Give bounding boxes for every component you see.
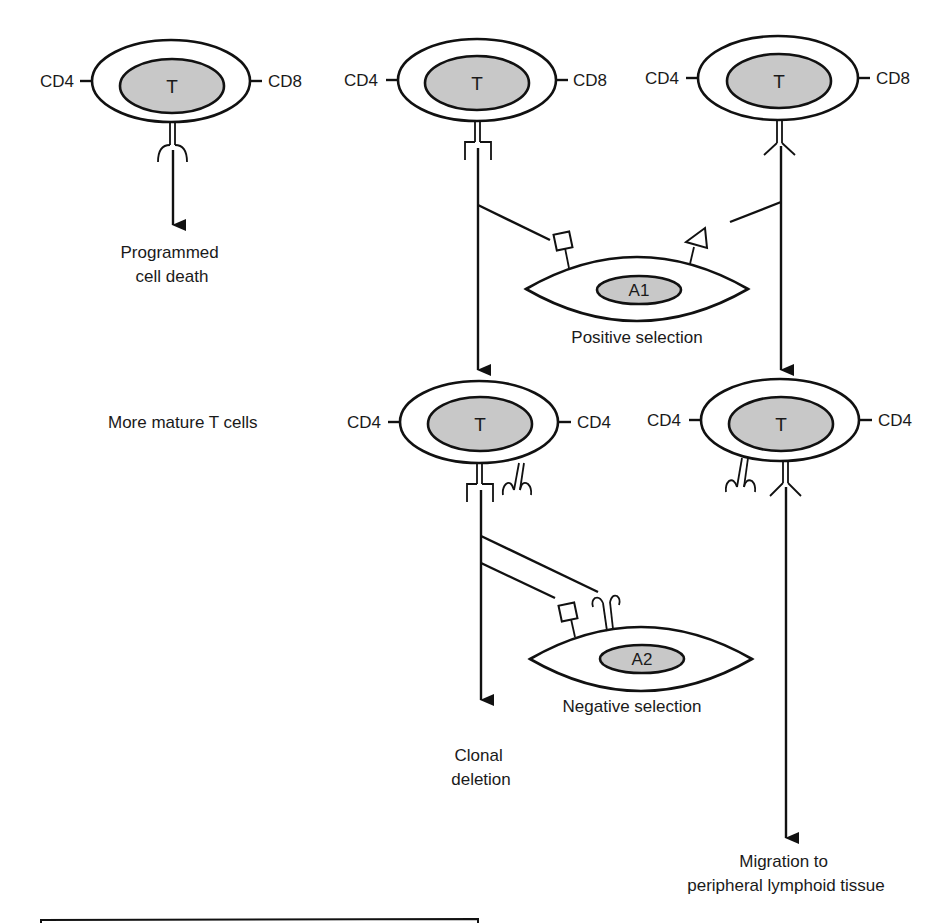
cd8-label: CD8 — [573, 71, 607, 90]
immature-t-cell-left: T CD4 CD8 Programmed cell death — [40, 40, 302, 286]
immature-t-cell-right: T CD4 CD8 — [645, 36, 910, 370]
cd4-label: CD4 — [40, 72, 74, 91]
antigen-presenting-cell-a1: A1 Positive selection — [526, 228, 748, 347]
antigen-presenting-cell-a2: A2 Negative selection — [530, 596, 752, 716]
mature-t-cell-left: T CD4 CD4 Clonal deletion — [347, 381, 611, 789]
cd8-label: CD8 — [876, 69, 910, 88]
cd4-label: CD4 — [347, 413, 381, 432]
nucleus-label: T — [166, 76, 178, 97]
cd4-label: CD4 — [647, 411, 681, 430]
cd4-label: CD4 — [577, 413, 611, 432]
nucleus-label: T — [474, 414, 486, 435]
square-antigen-icon — [554, 232, 573, 251]
cd4-label: CD4 — [878, 411, 912, 430]
cd4-label: CD4 — [645, 69, 679, 88]
curly-ligand-icon — [592, 596, 619, 631]
apc-nucleus-label: A2 — [632, 650, 653, 669]
t-cell-selection-diagram: T CD4 CD8 Programmed cell death T CD4 CD… — [0, 0, 948, 923]
curly-receptor-icon — [726, 458, 755, 492]
apc-nucleus-label: A1 — [629, 281, 650, 300]
immature-t-cell-middle: T CD4 CD8 — [344, 39, 607, 370]
binding-line-triangle — [730, 202, 781, 222]
mhc-stalk — [571, 619, 575, 637]
cd4-label: CD4 — [344, 71, 378, 90]
fate-label-clonal-deletion: Clonal deletion — [451, 746, 511, 789]
binding-line-square — [481, 563, 555, 598]
cd8-label: CD8 — [268, 72, 302, 91]
caption-box-edge — [41, 919, 478, 923]
square-antigen-icon — [559, 603, 578, 622]
triangle-antigen-icon — [686, 228, 707, 248]
curly-receptor-icon — [503, 463, 531, 495]
nucleus-label: T — [471, 73, 483, 94]
binding-line-curly — [481, 536, 598, 592]
fate-label-migration: Migration to peripheral lymphoid tissue — [687, 852, 885, 895]
binding-line-square — [478, 205, 550, 240]
positive-selection-label: Positive selection — [571, 328, 702, 347]
mhc-stalk — [690, 247, 694, 264]
nucleus-label: T — [775, 414, 787, 435]
tcr-receptor-y-icon — [764, 120, 795, 155]
mhc-stalk — [565, 248, 569, 268]
fate-label-programmed-cell-death: Programmed cell death — [121, 243, 224, 286]
more-mature-t-cells-label: More mature T cells — [108, 413, 258, 432]
negative-selection-label: Negative selection — [563, 697, 702, 716]
nucleus-label: T — [773, 71, 785, 92]
